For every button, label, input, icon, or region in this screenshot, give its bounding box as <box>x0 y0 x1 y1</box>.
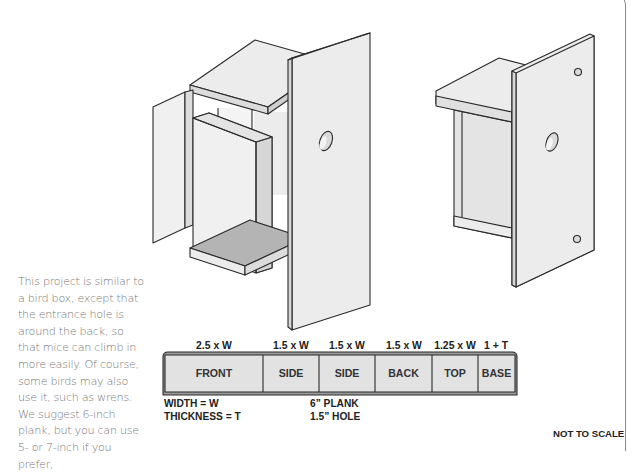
legend-thickness: THICKNESS = T <box>164 411 241 424</box>
piece-base: BASE <box>478 353 515 393</box>
legend-plank-info: 6” PLANK 1.5” HOLE <box>310 398 360 423</box>
project-description: This project is similar to a bird box, e… <box>18 274 148 473</box>
size-label-base: 1 + T <box>484 340 508 351</box>
piece-side-2: SIDE <box>319 353 375 393</box>
cut-plan-size-labels: 2.5 x W 1.5 x W 1.5 x W 1.5 x W 1.25 x W… <box>163 340 516 354</box>
assembled-view <box>436 34 594 287</box>
piece-front: FRONT <box>165 353 263 393</box>
size-label-side-2: 1.5 x W <box>329 340 365 351</box>
not-to-scale-note: NOT TO SCALE <box>553 428 624 441</box>
legend-plank: 6” PLANK <box>310 398 360 411</box>
cut-plan-plank: FRONT SIDE SIDE BACK TOP BASE <box>163 353 515 393</box>
piece-top: TOP <box>432 353 478 393</box>
size-label-top: 1.25 x W <box>434 340 476 351</box>
size-label-side-1: 1.5 x W <box>273 340 309 351</box>
legend-hole: 1.5” HOLE <box>310 411 360 424</box>
exploded-view <box>153 33 370 330</box>
piece-back: BACK <box>375 353 432 393</box>
legend-width: WIDTH = W <box>164 398 241 411</box>
size-label-back: 1.5 x W <box>386 340 422 351</box>
piece-side-1: SIDE <box>263 353 319 393</box>
legend-dimensions: WIDTH = W THICKNESS = T <box>164 398 241 423</box>
size-label-front: 2.5 x W <box>196 340 232 351</box>
